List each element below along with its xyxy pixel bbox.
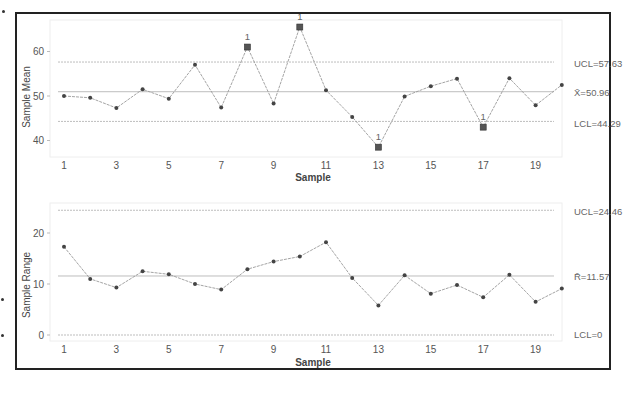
x-tick-label: 17 bbox=[478, 344, 490, 355]
data-point bbox=[193, 282, 197, 286]
data-point bbox=[88, 96, 92, 100]
data-point bbox=[481, 295, 485, 299]
data-point bbox=[245, 267, 249, 271]
data-point bbox=[324, 88, 328, 92]
top-ucl-label: UCL=57.63 bbox=[574, 58, 622, 69]
data-point bbox=[376, 303, 380, 307]
control-chart: Sample Mean Sample UCL=57.63 X̄=50.96 LC… bbox=[0, 0, 634, 393]
data-point bbox=[403, 94, 407, 98]
data-point bbox=[350, 115, 354, 119]
data-point bbox=[167, 272, 171, 276]
data-point bbox=[219, 106, 223, 110]
bottom-ucl-label: UCL=24.46 bbox=[574, 206, 622, 217]
x-tick-label: 3 bbox=[114, 160, 120, 171]
top-x-axis-label: Sample bbox=[295, 172, 331, 183]
x-tick-label: 7 bbox=[218, 160, 224, 171]
data-point bbox=[429, 292, 433, 296]
data-point bbox=[167, 97, 171, 101]
data-point bbox=[350, 276, 354, 280]
data-point bbox=[298, 254, 302, 258]
flag-label: 1 bbox=[376, 131, 381, 142]
plot-area bbox=[50, 203, 562, 341]
x-tick-label: 3 bbox=[114, 344, 120, 355]
y-tick-label: 20 bbox=[33, 228, 45, 239]
series-line bbox=[64, 27, 562, 147]
flag-label: 1 bbox=[481, 111, 486, 122]
x-tick-label: 9 bbox=[271, 160, 277, 171]
x-tick-label: 1 bbox=[61, 344, 67, 355]
x-tick-label: 15 bbox=[425, 344, 437, 355]
out-of-control-point bbox=[375, 144, 381, 150]
x-tick-label: 17 bbox=[478, 160, 490, 171]
x-tick-label: 13 bbox=[373, 160, 385, 171]
range-chart: Sample Range Sample UCL=24.46 R̄=11.57 L… bbox=[21, 203, 622, 368]
bottom-x-axis-label: Sample bbox=[295, 357, 331, 368]
x-tick-label: 11 bbox=[321, 344, 332, 355]
out-of-control-point bbox=[244, 44, 250, 50]
y-tick-label: 10 bbox=[33, 279, 45, 290]
data-point bbox=[114, 106, 118, 110]
data-point bbox=[219, 288, 223, 292]
x-tick-label: 11 bbox=[321, 160, 332, 171]
data-point bbox=[534, 103, 538, 107]
data-point bbox=[403, 273, 407, 277]
top-center-label: X̄=50.96 bbox=[574, 87, 610, 98]
data-point bbox=[62, 245, 66, 249]
data-point bbox=[534, 300, 538, 304]
data-point bbox=[272, 260, 276, 264]
x-tick-label: 13 bbox=[373, 344, 385, 355]
out-of-control-point bbox=[480, 124, 486, 130]
top-y-axis-label: Sample Mean bbox=[21, 66, 32, 128]
bottom-lcl-label: LCL=0 bbox=[574, 329, 602, 340]
bottom-y-axis-label: Sample Range bbox=[21, 251, 32, 318]
x-tick-label: 19 bbox=[530, 344, 542, 355]
data-point bbox=[114, 286, 118, 290]
y-tick-label: 40 bbox=[33, 135, 45, 146]
data-point bbox=[560, 83, 564, 87]
x-tick-label: 15 bbox=[425, 160, 437, 171]
data-point bbox=[141, 269, 145, 273]
flag-label: 1 bbox=[297, 11, 302, 22]
x-tick-label: 5 bbox=[166, 344, 172, 355]
data-point bbox=[88, 277, 92, 281]
bottom-center-label: R̄=11.57 bbox=[574, 271, 609, 282]
data-point bbox=[141, 87, 145, 91]
x-tick-label: 1 bbox=[61, 160, 67, 171]
data-point bbox=[507, 76, 511, 80]
data-point bbox=[193, 63, 197, 67]
data-point bbox=[62, 94, 66, 98]
x-tick-label: 19 bbox=[530, 160, 542, 171]
data-point bbox=[507, 273, 511, 277]
data-point bbox=[324, 240, 328, 244]
flag-label: 1 bbox=[245, 31, 250, 42]
data-point bbox=[455, 77, 459, 81]
data-point bbox=[455, 283, 459, 287]
top-lcl-label: LCL=44.29 bbox=[574, 118, 621, 129]
xbar-chart: Sample Mean Sample UCL=57.63 X̄=50.96 LC… bbox=[21, 11, 622, 183]
series-line bbox=[64, 242, 562, 305]
out-of-control-point bbox=[297, 24, 303, 30]
y-tick-label: 0 bbox=[38, 330, 44, 341]
data-point bbox=[429, 84, 433, 88]
y-tick-label: 50 bbox=[33, 91, 45, 102]
data-point bbox=[560, 287, 564, 291]
x-tick-label: 7 bbox=[218, 344, 224, 355]
y-tick-label: 60 bbox=[33, 46, 45, 57]
x-tick-label: 5 bbox=[166, 160, 172, 171]
x-tick-label: 9 bbox=[271, 344, 277, 355]
plot-area bbox=[50, 20, 562, 157]
data-point bbox=[272, 102, 276, 106]
